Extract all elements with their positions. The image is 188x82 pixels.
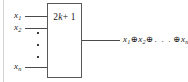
vertical-ellipsis-icon [37, 32, 40, 68]
output-term1-subscript: 1 [127, 38, 130, 45]
output-termn-subscript: n [185, 38, 188, 45]
output-wire [82, 40, 120, 41]
input-xn-subscript: n [18, 65, 21, 72]
output-term2-subscript: 2 [142, 38, 145, 45]
input-wire-xn [25, 67, 47, 68]
ellipsis-dot [37, 32, 39, 34]
input-label-x2: x2 [14, 23, 21, 32]
page-edge-rule [3, 0, 4, 82]
ellipsis-dot [37, 44, 39, 46]
input-wire-x1 [25, 16, 47, 17]
gate-label-suffix: + 1 [63, 12, 76, 22]
output-expression: x1⊕x2⊕. . .⊕xn [123, 35, 188, 44]
logic-gate-figure: x1 x2 xn 2k+ 1 x1⊕x2⊕. . .⊕xn [0, 0, 188, 82]
input-x2-subscript: 2 [18, 26, 21, 33]
ellipsis-dot [37, 56, 39, 58]
gate-threshold-label: 2k+ 1 [47, 12, 82, 22]
input-x1-subscript: 1 [18, 14, 21, 21]
xor-icon: ⊕ [145, 34, 153, 44]
horizontal-ellipsis: . . . [154, 34, 173, 44]
input-label-xn: xn [14, 62, 21, 71]
input-wire-x2 [25, 28, 47, 29]
xor-icon: ⊕ [173, 34, 181, 44]
input-label-x1: x1 [14, 11, 21, 20]
